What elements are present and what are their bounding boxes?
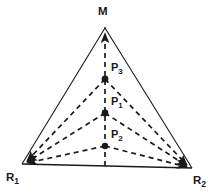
dashed-P2-to-R1 (27, 146, 105, 163)
vertex-marker-M (104, 27, 106, 29)
edge-base-R1-to-R2 (22, 164, 192, 168)
vertex-label-R1-subscript: 1 (14, 176, 19, 186)
edge-left-R1-to-M (22, 28, 105, 164)
point-label-P2-subscript: 2 (118, 134, 122, 143)
vertex-label-R2-subscript: 2 (201, 179, 206, 189)
point-marker-P3 (102, 76, 109, 83)
point-label-P3-subscript: 3 (118, 67, 122, 76)
vertex-label-R2: R2 (193, 175, 206, 187)
vertex-markers (104, 27, 106, 29)
geometry-figure: M P3 P1 P2 R1 R2 (0, 0, 216, 195)
point-marker-P2 (102, 143, 108, 149)
vertex-label-M: M (98, 6, 108, 18)
point-label-P2: P2 (111, 129, 123, 140)
point-label-P3: P3 (111, 62, 123, 73)
dashed-P3-to-R2 (105, 79, 187, 165)
vertex-label-R1: R1 (6, 172, 19, 184)
dashed-P2-to-R2 (105, 146, 187, 167)
connectors-P2 (27, 146, 187, 167)
vertex-label-M-text: M (98, 5, 108, 17)
point-marker-P1 (102, 110, 109, 117)
point-label-P1: P1 (111, 96, 123, 107)
geometry-canvas (0, 0, 216, 195)
point-label-P1-subscript: 1 (118, 101, 122, 110)
